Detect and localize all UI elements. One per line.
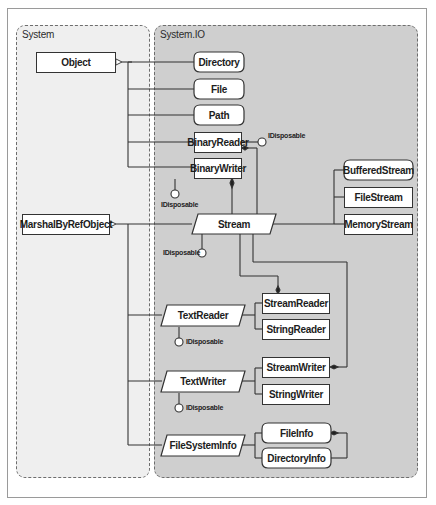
- class-directory[interactable]: Directory: [194, 52, 244, 72]
- text-reader-idisposable-label: IDisposable: [186, 338, 223, 345]
- binary-reader-idisposable-label: IDisposable: [268, 132, 305, 139]
- class-path[interactable]: Path: [194, 105, 244, 125]
- class-directory-info[interactable]: DirectoryInfo: [262, 448, 331, 468]
- class-binary-writer[interactable]: BinaryWriter: [194, 158, 242, 179]
- class-memory-stream[interactable]: MemoryStream: [344, 214, 413, 235]
- class-file-system-info[interactable]: FileSystemInfo: [163, 435, 243, 456]
- binary-writer-idisposable-label: IDisposable: [161, 201, 198, 208]
- class-stream-reader[interactable]: StreamReader: [262, 293, 330, 314]
- class-stream-writer[interactable]: StreamWriter: [262, 357, 330, 378]
- class-file-stream[interactable]: FileStream: [344, 187, 413, 208]
- class-marshal-by-ref-object[interactable]: MarshalByRefObject: [22, 214, 110, 235]
- class-object[interactable]: Object: [36, 52, 116, 73]
- class-string-writer[interactable]: StringWriter: [262, 384, 330, 405]
- connector-lines: [0, 0, 436, 505]
- class-file-info[interactable]: FileInfo: [262, 423, 331, 443]
- class-stream[interactable]: Stream: [194, 214, 274, 234]
- text-writer-idisposable-label: IDisposable: [186, 404, 223, 411]
- class-text-writer[interactable]: TextWriter: [163, 371, 243, 392]
- class-string-reader[interactable]: StringReader: [262, 319, 330, 340]
- class-file[interactable]: File: [194, 79, 244, 99]
- class-binary-reader[interactable]: BinaryReader: [194, 132, 242, 153]
- stream-idisposable-label: IDisposable: [163, 249, 200, 256]
- class-buffered-stream[interactable]: BufferedStream: [344, 160, 413, 180]
- class-text-reader[interactable]: TextReader: [163, 305, 243, 326]
